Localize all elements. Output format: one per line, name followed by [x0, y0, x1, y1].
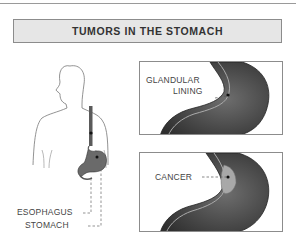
glandular-label-line2: LINING — [173, 86, 203, 96]
stomach-tumor-illustration — [140, 153, 283, 232]
stomach-label: STOMACH — [25, 220, 69, 230]
esophagus-label: ESOPHAGUS — [17, 207, 73, 217]
glandular-label-line1: GLANDULAR — [146, 75, 200, 85]
cancer-label: CANCER — [155, 172, 192, 182]
cancer-panel: CANCER — [139, 152, 283, 232]
top-rule — [0, 3, 296, 4]
stomach-cross-section-illustration — [140, 62, 283, 135]
glandular-lining-panel: GLANDULAR LINING — [139, 61, 283, 135]
title-banner: TUMORS IN THE STOMACH — [13, 19, 282, 43]
diagram-title: TUMORS IN THE STOMACH — [72, 25, 223, 37]
